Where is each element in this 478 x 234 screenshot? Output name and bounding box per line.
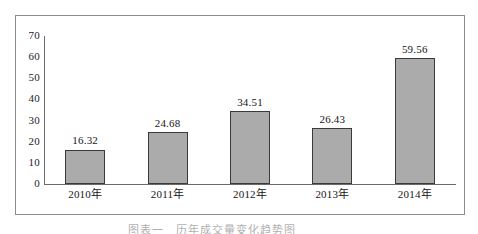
bar-value-label: 59.56 xyxy=(384,43,446,55)
bar-group: 24.682011年 xyxy=(145,0,191,234)
bar-value-label: 34.51 xyxy=(219,96,281,108)
bar[interactable] xyxy=(148,132,188,184)
bar-value-label: 16.32 xyxy=(54,134,116,146)
bar-value-label: 24.68 xyxy=(137,117,199,129)
y-axis-tick-label: 40 xyxy=(14,93,40,104)
y-axis-tick-label: 60 xyxy=(14,51,40,62)
bar-group: 59.562014年 xyxy=(392,0,438,234)
bar[interactable] xyxy=(312,128,352,184)
bar-value-label: 26.43 xyxy=(301,113,363,125)
x-axis-category-label: 2014年 xyxy=(383,188,447,200)
y-axis-tick-label: 50 xyxy=(14,72,40,83)
bar[interactable] xyxy=(230,111,270,184)
bars-layer: 16.322010年24.682011年34.512012年26.432013年… xyxy=(44,0,456,234)
y-axis-tick-label: 70 xyxy=(14,30,40,41)
bar-group: 34.512012年 xyxy=(227,0,273,234)
bar-chart-figure: 706050403020100 16.322010年24.682011年34.5… xyxy=(0,0,478,234)
bar-group: 16.322010年 xyxy=(62,0,108,234)
x-axis-category-label: 2011年 xyxy=(136,188,200,200)
bar[interactable] xyxy=(395,58,435,184)
x-axis-category-label: 2013年 xyxy=(300,188,364,200)
y-axis-tick-labels: 706050403020100 xyxy=(12,0,40,234)
bar-group: 26.432013年 xyxy=(309,0,355,234)
bar[interactable] xyxy=(65,150,105,185)
y-axis-tick-label: 10 xyxy=(14,157,40,168)
x-axis-category-label: 2010年 xyxy=(53,188,117,200)
y-axis-tick-label: 0 xyxy=(14,178,40,189)
y-axis-tick-label: 30 xyxy=(14,115,40,126)
figure-caption: 图表一 历年成交量变化趋势图 xyxy=(128,224,378,234)
x-axis-category-label: 2012年 xyxy=(218,188,282,200)
y-axis-tick-label: 20 xyxy=(14,136,40,147)
